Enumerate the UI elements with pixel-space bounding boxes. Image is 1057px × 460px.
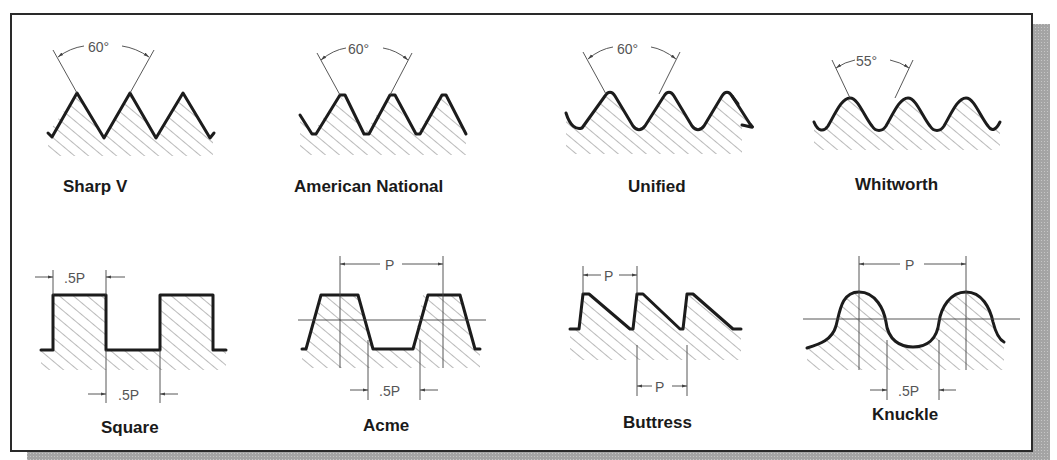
thread-label: Acme — [363, 416, 409, 435]
angle-label: 60° — [348, 41, 369, 57]
dimension-label: .5P — [379, 383, 400, 399]
dimension-label: P — [905, 257, 914, 273]
dimension-label: P — [604, 268, 613, 284]
frame-shadow-bottom — [27, 452, 1050, 460]
angle-label: 60° — [617, 41, 638, 57]
dimension-label: P — [385, 257, 394, 273]
thread-label: Sharp V — [63, 177, 128, 196]
dimension-label: P — [655, 379, 664, 395]
dimension-label: .5P — [898, 383, 919, 399]
figure-frame — [11, 14, 1032, 451]
thread-label: Knuckle — [872, 405, 938, 424]
dimension-label: .5P — [64, 270, 85, 286]
angle-label: 55° — [856, 53, 877, 69]
frame-shadow — [1033, 24, 1050, 460]
thread-forms-figure: 60° Sharp V 60° American National 60° Un… — [0, 0, 1057, 460]
thread-label: Square — [101, 418, 159, 437]
dimension-label: .5P — [118, 387, 139, 403]
angle-label: 60° — [88, 39, 109, 55]
thread-label: Unified — [628, 177, 686, 196]
thread-label: Buttress — [623, 413, 692, 432]
thread-label: American National — [294, 177, 443, 196]
thread-label: Whitworth — [855, 175, 938, 194]
